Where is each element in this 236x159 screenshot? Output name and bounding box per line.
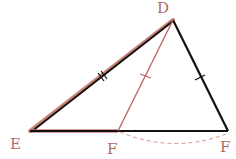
label-d: D	[157, 0, 169, 17]
dashed-arc	[120, 132, 226, 144]
triangle-diagram: D E F F	[0, 0, 236, 159]
label-f-mid: F	[107, 140, 117, 158]
edge-de	[31, 21, 173, 132]
label-e: E	[10, 135, 21, 153]
label-f-right: F	[220, 138, 230, 156]
diagram-svg: D E F F	[0, 0, 236, 159]
edge-d-fright	[173, 20, 228, 131]
